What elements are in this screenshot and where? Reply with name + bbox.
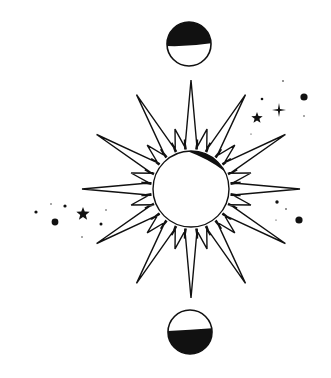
star-dot <box>295 216 302 223</box>
star-dot <box>275 200 278 203</box>
moon-bottom <box>166 310 214 356</box>
star-dot <box>63 204 66 207</box>
star-dot <box>285 208 287 210</box>
star-icon <box>76 207 89 220</box>
star-dot <box>250 133 251 134</box>
star-dot <box>303 115 304 116</box>
moon-shadow <box>165 20 213 46</box>
sparkle-icon <box>272 103 286 117</box>
star-dot <box>261 98 264 101</box>
moon-shadow <box>166 328 214 356</box>
celestial-illustration <box>0 0 331 378</box>
illustration-svg <box>0 0 331 378</box>
star-dot <box>282 80 284 82</box>
star-icon <box>251 112 262 123</box>
star-dot <box>105 209 106 210</box>
star-dot <box>50 203 51 204</box>
star-dot <box>52 219 59 226</box>
star-dot <box>100 223 103 226</box>
star-dot <box>34 210 37 213</box>
star-dot <box>81 236 82 237</box>
sun <box>82 80 300 298</box>
moon-top <box>165 20 213 66</box>
star-dot <box>300 93 307 100</box>
star-dot <box>275 219 276 220</box>
